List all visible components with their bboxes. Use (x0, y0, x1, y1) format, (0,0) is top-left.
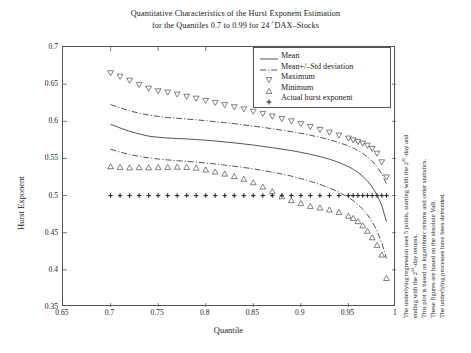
x-tick-label: 0.85 (246, 308, 259, 317)
side-note-line: This plot is based on logarithmic return… (420, 159, 427, 318)
x-tick-label: 0.75 (150, 308, 163, 317)
legend-item-label: Mean+/–Std deviation (281, 62, 353, 73)
solid-line-icon (257, 51, 281, 61)
series-minimum (108, 164, 390, 281)
y-axis-ticks: 0.350.40.450.50.550.60.650.7 (0, 46, 58, 306)
x-tick-label: 0.65 (55, 308, 68, 317)
legend-item: Actual hurst exponent (257, 93, 386, 104)
series-mean (111, 124, 387, 221)
x-tick-label: 0.9 (295, 308, 305, 317)
y-tick-label: 0.5 (49, 190, 59, 199)
y-tick-label: 0.45 (45, 227, 58, 236)
legend-item: Maximum (257, 72, 386, 83)
y-tick-label: 0.4 (49, 264, 59, 273)
y-tick-label: 0.55 (45, 153, 58, 162)
y-tick-label: 0.65 (45, 79, 58, 88)
side-note-line: These figures are based on the absolute … (429, 200, 436, 318)
chart-legend: MeanMean+/–Std deviationMaximumMinimumAc… (253, 47, 391, 108)
legend-item-label: Mean (281, 51, 299, 62)
legend-item-label: Maximum (281, 72, 315, 83)
plus-icon (257, 94, 281, 104)
side-note-line: The underlying regression uses 5 points,… (401, 134, 409, 318)
x-tick-label: 0.7 (105, 308, 115, 317)
triangle-up-icon (257, 83, 281, 93)
legend-item: Mean+/–Std deviation (257, 62, 386, 73)
legend-item-label: Actual hurst exponent (281, 93, 352, 104)
y-tick-label: 0.6 (49, 116, 59, 125)
dashdot-line-icon (257, 62, 281, 72)
chart-figure: Quantitative Characteristics of the Hurs… (0, 0, 471, 353)
x-tick-label: 1 (393, 308, 397, 317)
x-tick-label: 0.8 (200, 308, 210, 317)
x-axis-label: Quantile (62, 325, 395, 335)
side-annotations: The underlying regression uses 5 points,… (399, 0, 471, 353)
series-actual-hurst-exponent (108, 193, 388, 197)
side-note-line: The underlying processes have been detre… (438, 193, 445, 318)
legend-item: Mean (257, 51, 386, 62)
legend-item: Minimum (257, 83, 386, 94)
side-note-line: ending with the 224-day returns. (410, 234, 418, 318)
legend-item-label: Minimum (281, 83, 313, 94)
y-tick-label: 0.7 (49, 42, 59, 51)
triangle-down-icon (257, 72, 281, 82)
x-tick-label: 0.95 (341, 308, 354, 317)
